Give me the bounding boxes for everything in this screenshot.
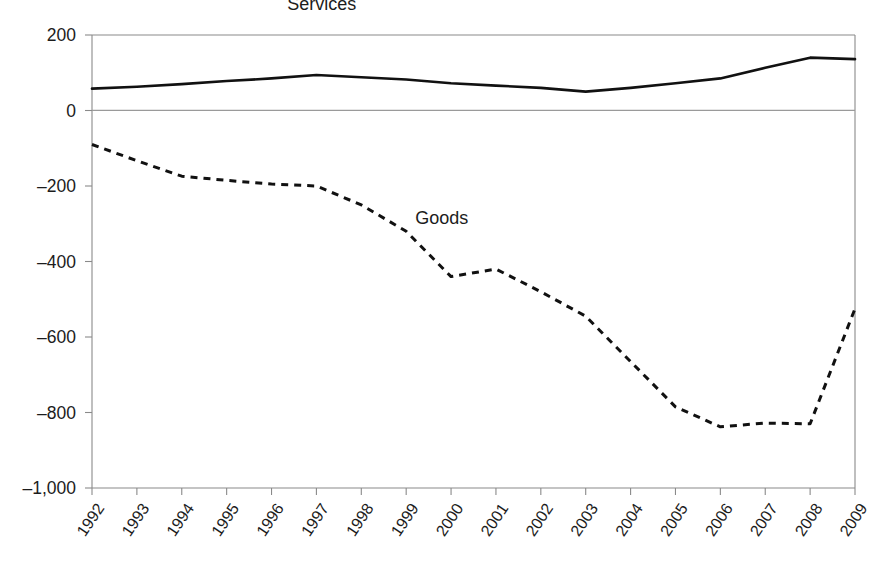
x-tick-label: 1993: [118, 500, 152, 539]
line-chart-svg: 2000–200–400–600–800–1,000 1992199319941…: [0, 0, 882, 567]
x-tick-label: 2009: [836, 500, 870, 539]
x-tick-label: 2005: [657, 500, 691, 539]
x-tick-label: 1992: [73, 500, 107, 539]
y-tick-label: –800: [37, 403, 76, 423]
y-tick-label: 0: [66, 101, 76, 121]
x-tick-label: 2004: [612, 500, 646, 539]
x-tick-label: 1995: [208, 500, 242, 539]
series-line-goods: [92, 144, 855, 426]
x-tick-label: 2006: [702, 500, 736, 539]
x-tick-label: 1997: [298, 500, 332, 539]
x-tick-label: 2008: [792, 500, 826, 539]
chart-axes: [92, 35, 855, 488]
x-axis-ticks: 1992199319941995199619971998199920002001…: [73, 488, 870, 539]
y-tick-label: –600: [37, 327, 76, 347]
x-tick-label: 2003: [567, 500, 601, 539]
y-axis-ticks: 2000–200–400–600–800–1,000: [22, 25, 92, 498]
chart-figure: 2000–200–400–600–800–1,000 1992199319941…: [0, 0, 882, 567]
x-tick-label: 1999: [388, 500, 422, 539]
y-tick-label: 200: [47, 25, 76, 45]
x-tick-label: 2002: [522, 500, 556, 539]
y-tick-label: –200: [37, 176, 76, 196]
x-tick-label: 2007: [747, 500, 781, 539]
series-label-goods: Goods: [415, 208, 468, 228]
series-line-services: [92, 58, 855, 92]
x-tick-label: 2000: [433, 500, 467, 539]
x-tick-label: 1998: [343, 500, 377, 539]
series-label-services: Services: [287, 0, 356, 14]
chart-series-group: [92, 58, 855, 427]
x-tick-label: 1996: [253, 500, 287, 539]
y-tick-label: –1,000: [22, 478, 76, 498]
x-tick-label: 1994: [163, 500, 197, 539]
x-tick-label: 2001: [477, 500, 511, 539]
y-tick-label: –400: [37, 252, 76, 272]
